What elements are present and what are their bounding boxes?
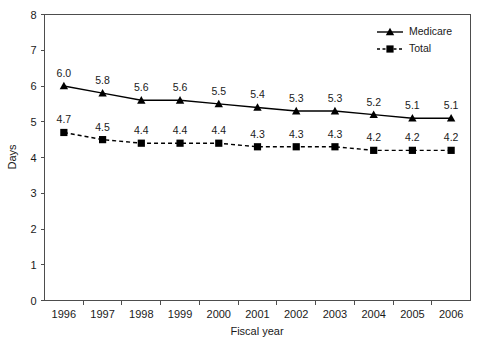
- data-point-marker: [176, 140, 183, 147]
- x-tick-label: 2000: [207, 308, 231, 320]
- data-point-label: 6.0: [57, 67, 72, 79]
- data-point-label: 5.6: [134, 81, 149, 93]
- data-point-label: 5.8: [95, 74, 110, 86]
- x-tick-label: 2004: [361, 308, 385, 320]
- data-point-marker: [254, 143, 261, 150]
- y-tick-label: 0: [30, 295, 36, 307]
- y-axis-ticks: 012345678: [30, 9, 44, 307]
- data-point-label: 5.3: [328, 92, 343, 104]
- data-point-label: 4.2: [405, 131, 420, 143]
- data-point-marker: [331, 143, 338, 150]
- y-tick-label: 2: [30, 223, 36, 235]
- data-point-label: 4.3: [328, 128, 343, 140]
- y-tick-label: 3: [30, 187, 36, 199]
- legend-label-medicare: Medicare: [409, 25, 452, 37]
- data-point-label: 4.7: [57, 113, 72, 125]
- y-tick-label: 1: [30, 259, 36, 271]
- data-point-marker: [99, 136, 106, 143]
- y-tick-label: 7: [30, 44, 36, 56]
- data-point-label: 4.4: [211, 124, 226, 136]
- data-point-label: 5.5: [211, 85, 226, 97]
- chart-legend: MedicareTotal: [377, 25, 452, 54]
- x-tick-label: 2003: [323, 308, 347, 320]
- data-point-label: 4.3: [289, 128, 304, 140]
- data-point-marker: [448, 147, 455, 154]
- x-tick-label: 2001: [245, 308, 269, 320]
- data-point-marker: [370, 147, 377, 154]
- line-chart: 012345678 199619971998199920002001200220…: [0, 0, 494, 344]
- x-tick-label: 1999: [168, 308, 192, 320]
- x-tick-label: 2006: [439, 308, 463, 320]
- y-tick-label: 5: [30, 116, 36, 128]
- plot-area-border: [45, 15, 471, 301]
- data-point-label: 4.2: [444, 131, 459, 143]
- data-point-label: 4.2: [366, 131, 381, 143]
- data-point-label: 5.1: [444, 99, 459, 111]
- y-axis-title: Days: [6, 144, 18, 170]
- y-tick-label: 8: [30, 9, 36, 21]
- data-point-label: 4.4: [173, 124, 188, 136]
- data-point-marker: [409, 147, 416, 154]
- chart-container: 012345678 199619971998199920002001200220…: [0, 0, 494, 344]
- y-tick-label: 4: [30, 152, 36, 164]
- x-axis-ticks: 1996199719981999200020012002200320042005…: [52, 301, 464, 320]
- x-tick-label: 2005: [400, 308, 424, 320]
- data-point-marker: [60, 82, 68, 90]
- data-point-label: 4.5: [95, 121, 110, 133]
- legend-label-total: Total: [409, 42, 431, 54]
- y-tick-label: 6: [30, 80, 36, 92]
- data-point-label: 5.6: [173, 81, 188, 93]
- x-axis-title: Fiscal year: [230, 325, 284, 337]
- x-tick-label: 1996: [52, 308, 76, 320]
- x-tick-label: 1997: [90, 308, 114, 320]
- data-point-label: 5.3: [289, 92, 304, 104]
- legend-marker-total: [386, 45, 393, 52]
- data-point-label: 5.1: [405, 99, 420, 111]
- x-tick-label: 1998: [129, 308, 153, 320]
- data-point-label: 5.4: [250, 88, 265, 100]
- data-point-marker: [215, 140, 222, 147]
- data-point-label: 4.4: [134, 124, 149, 136]
- data-point-label: 5.2: [366, 96, 381, 108]
- x-tick-label: 2002: [284, 308, 308, 320]
- data-point-marker: [60, 129, 67, 136]
- data-point-label: 4.3: [250, 128, 265, 140]
- data-point-marker: [138, 140, 145, 147]
- data-point-marker: [293, 143, 300, 150]
